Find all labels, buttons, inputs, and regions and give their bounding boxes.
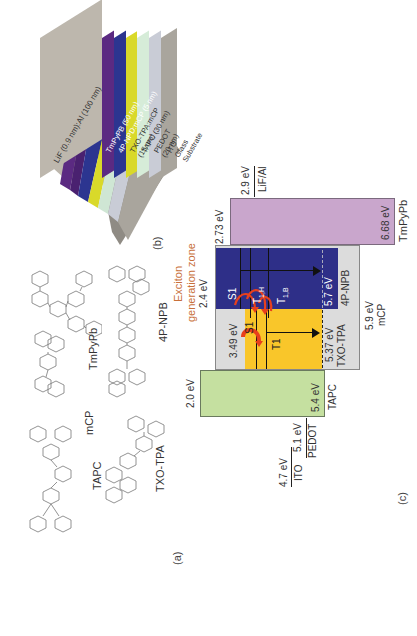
tapc-name: TAPC — [328, 384, 338, 410]
exciton-zone-label-line2: generation zone — [186, 243, 197, 322]
t1b-main: T — [276, 298, 287, 304]
txotpa-homo-dash — [322, 310, 323, 368]
4pnpb-name: 4P-NPB — [341, 270, 351, 306]
lifal-level-line — [254, 166, 255, 197]
pedot-name: PEDOT — [308, 424, 318, 458]
s1-guest-label: S1 — [245, 322, 255, 334]
mcp-structure — [30, 330, 75, 400]
4pnpb-energy-box — [216, 248, 338, 309]
t1b-label: T1,B — [277, 287, 289, 304]
tmpypb-energy-box — [230, 198, 395, 245]
arrowhead-icon — [312, 328, 320, 338]
molecules-panel: TmPyPb mCP 4P-NPB TAPC — [0, 260, 180, 636]
t1b-transition-arrow — [240, 270, 315, 271]
s1-host-level — [240, 248, 241, 309]
4pnpb-homo-dash — [322, 250, 323, 308]
txotpa-lumo: 3.49 eV — [229, 324, 239, 358]
panel-label-c: (c) — [397, 492, 408, 505]
s1-guest-level — [256, 309, 257, 369]
molecule-label-tmpypb: TmPyPb — [88, 328, 99, 370]
device-stack-panel: LiF (0.9 nm):Al (100 nm) TmPyPB (50 nm) … — [0, 0, 190, 250]
t1-guest-label: T1 — [272, 338, 282, 350]
stack-layer-4pnpd-mcp — [114, 31, 126, 178]
ito-level-line — [291, 447, 292, 487]
mcp-name: mCP — [377, 304, 387, 326]
s1-host-label: S1 — [228, 288, 238, 300]
txotpa-homo: 5.37 eV — [325, 328, 335, 362]
pedot-value: 5.1 eV — [293, 423, 303, 452]
molecule-label-4pnpb: 4P-NPB — [158, 302, 169, 342]
tapc-homo: 5.4 eV — [311, 383, 321, 412]
txotpa-name: TXO-TPA — [337, 324, 347, 367]
ito-value: 4.7 eV — [279, 458, 289, 487]
lifal-name: LiF/Al — [258, 166, 268, 192]
mcp-homo: 5.9 eV — [365, 301, 375, 330]
tmpypb-name: TmPyPb — [398, 200, 409, 242]
t1b-sub: 1,B — [282, 287, 289, 298]
tapc-structure — [25, 420, 95, 545]
t1-guest-level — [266, 309, 267, 369]
mcp-energy-box — [215, 245, 360, 370]
t1h-main: T — [252, 298, 263, 304]
energy-transfer-arrows — [225, 285, 285, 365]
arrowhead-icon — [313, 266, 321, 276]
t1h-label: T1,H — [253, 287, 265, 304]
t1h-level — [250, 248, 251, 318]
t1h-sub: 1,H — [258, 287, 265, 298]
4pnpb-homo: 5.7 eV — [324, 277, 334, 306]
4pnpb-structure — [105, 265, 150, 400]
txotpa-energy-box — [245, 309, 322, 369]
mcp-lumo: 2.4 eV — [199, 279, 209, 308]
tapc-lumo: 2.0 eV — [186, 379, 196, 408]
tmpypb-homo: 6.68 eV — [381, 206, 391, 240]
panel-label-b: (b) — [152, 237, 163, 250]
molecule-label-txotpa: TXO-TPA — [155, 445, 166, 492]
t1b-level — [268, 248, 269, 318]
tapc-energy-box — [200, 370, 325, 417]
stack-layer-tmpypb — [102, 31, 114, 178]
tmpypb-lumo: 2.73 eV — [215, 210, 225, 244]
ito-name: ITO — [294, 465, 304, 481]
lifal-value: 2.9 eV — [241, 166, 251, 195]
pedot-level-line — [306, 418, 307, 458]
t1-transition-arrow — [266, 332, 314, 333]
panel-label-a: (a) — [172, 552, 183, 565]
